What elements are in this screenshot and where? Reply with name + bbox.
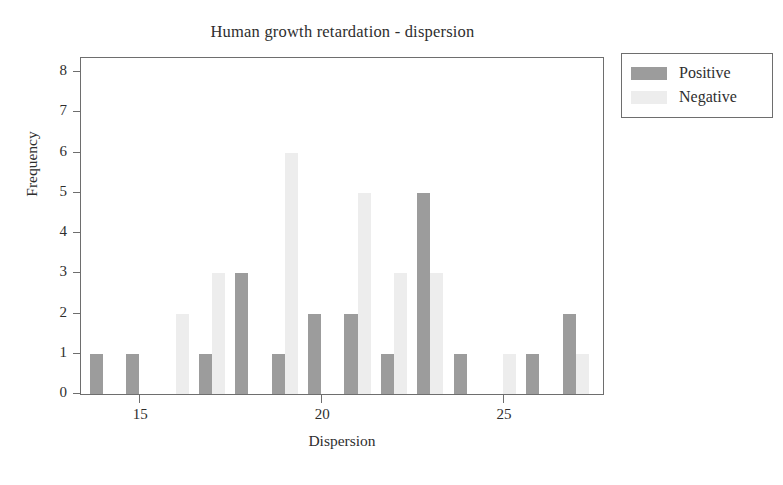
y-axis-tick: 8 <box>73 71 81 72</box>
y-axis-title: Frequency <box>23 84 41 244</box>
y-axis-tick: 3 <box>73 272 81 273</box>
y-axis-tick: 2 <box>73 313 81 314</box>
bar-negative-17 <box>212 273 225 394</box>
bar-negative-23 <box>430 273 443 394</box>
bar-negative-19 <box>285 153 298 394</box>
bar-positive-22 <box>381 354 394 394</box>
y-axis-tick: 0 <box>73 393 81 394</box>
bar-negative-22 <box>394 273 407 394</box>
chart-legend: PositiveNegative <box>621 53 773 118</box>
y-axis-tick-label: 6 <box>60 143 68 160</box>
legend-item-negative[interactable]: Negative <box>631 85 763 109</box>
legend-label: Negative <box>679 88 737 106</box>
y-axis-tick-label: 2 <box>60 304 68 321</box>
bar-positive-19 <box>272 354 285 394</box>
bar-positive-20 <box>308 314 321 394</box>
bar-positive-15 <box>126 354 139 394</box>
y-axis-tick: 4 <box>73 232 81 233</box>
bar-positive-18 <box>235 273 248 394</box>
x-axis-tick-label: 20 <box>315 406 330 423</box>
legend-item-positive[interactable]: Positive <box>631 61 763 85</box>
y-axis-tick-label: 0 <box>60 384 68 401</box>
bar-positive-26 <box>526 354 539 394</box>
legend-label: Positive <box>679 64 731 82</box>
plot-area: 012345678 152025 <box>80 57 604 395</box>
bar-negative-21 <box>358 193 371 394</box>
y-axis-tick: 6 <box>73 152 81 153</box>
plot-inner: 012345678 152025 <box>81 58 603 394</box>
x-axis-tick: 15 <box>139 394 140 403</box>
y-axis-tick-label: 1 <box>60 344 68 361</box>
x-axis-tick-label: 15 <box>133 406 148 423</box>
y-axis-tick: 1 <box>73 353 81 354</box>
bar-negative-27 <box>576 354 589 394</box>
bar-negative-25 <box>503 354 516 394</box>
x-axis-tick-label: 25 <box>497 406 512 423</box>
x-axis-tick: 25 <box>503 394 504 403</box>
bar-positive-21 <box>344 314 357 394</box>
legend-swatch-positive-icon <box>631 67 667 80</box>
y-axis-tick-label: 3 <box>60 263 68 280</box>
y-axis-tick: 5 <box>73 192 81 193</box>
chart-figure: Human growth retardation - dispersion 01… <box>0 0 783 485</box>
bar-positive-14 <box>90 354 103 394</box>
legend-swatch-negative-icon <box>631 91 667 104</box>
bar-positive-17 <box>199 354 212 394</box>
bar-positive-24 <box>454 354 467 394</box>
bar-positive-27 <box>563 314 576 394</box>
bar-negative-16 <box>176 314 189 394</box>
y-axis-tick-label: 5 <box>60 183 68 200</box>
y-axis-tick: 7 <box>73 111 81 112</box>
x-axis-title: Dispersion <box>80 432 604 450</box>
y-axis-tick-label: 8 <box>60 62 68 79</box>
x-axis-tick: 20 <box>321 394 322 403</box>
y-axis-tick-label: 7 <box>60 102 68 119</box>
y-axis-tick-label: 4 <box>60 223 68 240</box>
chart-title: Human growth retardation - dispersion <box>80 22 605 42</box>
bar-positive-23 <box>417 193 430 394</box>
